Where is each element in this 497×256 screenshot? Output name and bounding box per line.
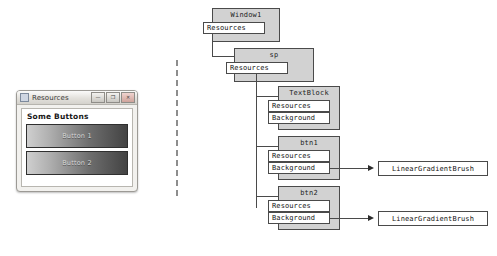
node-title-sp: sp: [235, 51, 313, 59]
node-title-btn1: btn1: [279, 139, 339, 147]
node-title-btn2: btn2: [279, 189, 339, 197]
property-box-btn2-background: Background: [268, 212, 330, 224]
panel-heading: Some Buttons: [22, 109, 132, 124]
window-icon: [20, 93, 29, 102]
titlebar-button-group: — ❐ ✕: [91, 92, 135, 103]
connector-sp-btn2: [256, 196, 278, 197]
property-box-btn2-resources: Resources: [268, 200, 330, 212]
button-1[interactable]: Button 1: [26, 124, 128, 148]
maximize-button[interactable]: ❐: [106, 92, 120, 103]
brush-box-1: LinearGradientBrush: [378, 161, 488, 176]
node-title-window1: Window1: [213, 11, 279, 19]
button-stack: Button 1 Button 2: [22, 124, 132, 175]
property-box-textblock-resources: Resources: [268, 100, 330, 112]
window-client-area: Some Buttons Button 1 Button 2: [21, 108, 133, 187]
button-2[interactable]: Button 2: [26, 151, 128, 175]
brush-box-2: LinearGradientBrush: [378, 211, 488, 226]
connector-btn1-brush-arrowhead: [368, 165, 374, 171]
connector-btn2-brush-arrowhead: [368, 215, 374, 221]
section-divider: [176, 60, 178, 196]
connector-btn1-brush-line: [330, 168, 372, 169]
connector-sp-textblock: [256, 96, 278, 97]
connector-sp-trunk: [256, 74, 257, 208]
window-titlebar: Resources — ❐ ✕: [17, 91, 137, 105]
property-box-sp-resources: Resources: [226, 62, 288, 74]
minimize-button[interactable]: —: [91, 92, 105, 103]
close-button[interactable]: ✕: [121, 92, 135, 103]
connector-window1-sp-vertical: [212, 34, 213, 56]
connector-sp-btn1: [256, 146, 278, 147]
screenshot-canvas: Resources — ❐ ✕ Some Buttons Button 1 Bu…: [0, 0, 497, 256]
property-box-window1-resources: Resources: [203, 22, 265, 34]
node-title-textblock: TextBlock: [279, 89, 339, 97]
property-box-btn1-background: Background: [268, 162, 330, 174]
window-title: Resources: [32, 94, 91, 102]
property-box-textblock-background: Background: [268, 112, 330, 124]
sample-app-window: Resources — ❐ ✕ Some Buttons Button 1 Bu…: [16, 90, 138, 192]
connector-btn2-brush-line: [330, 218, 372, 219]
property-box-btn1-resources: Resources: [268, 150, 330, 162]
connector-window1-sp-horizontal: [212, 56, 234, 57]
